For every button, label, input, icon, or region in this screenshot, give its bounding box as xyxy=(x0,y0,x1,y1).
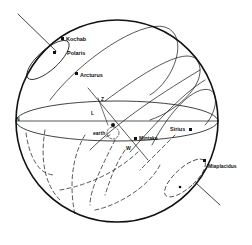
label-polaris: Polaris xyxy=(67,50,85,56)
zenith-line xyxy=(88,88,148,160)
observer-dot xyxy=(111,123,115,127)
star-path-2 xyxy=(105,56,200,120)
mintaka-path xyxy=(130,80,205,152)
polaris-marker xyxy=(53,51,56,54)
label-kochab: Kochab xyxy=(66,36,87,42)
kochab-marker xyxy=(61,37,64,40)
south-pole-dot xyxy=(179,186,182,189)
miaplacidus-marker xyxy=(203,159,206,162)
dashed-path-5 xyxy=(90,140,115,205)
dashed-path-6 xyxy=(95,165,160,210)
mintaka-marker xyxy=(134,137,137,140)
label-mintaka: Mintaka xyxy=(139,135,158,141)
label-miaplacidus: Miaplacidus xyxy=(208,163,237,169)
dashed-path-2 xyxy=(43,130,60,200)
label-zenith: Z xyxy=(101,96,104,102)
label-west: W xyxy=(126,145,131,151)
label-north: N xyxy=(16,116,20,122)
label-earth: earth xyxy=(93,130,105,136)
dashed-path-7 xyxy=(105,150,125,195)
sirius-marker xyxy=(189,128,192,131)
label-sirius: Sirius xyxy=(170,126,185,132)
polar-axis-lower xyxy=(196,183,220,205)
dashed-path-4 xyxy=(72,135,85,215)
arcturus-marker xyxy=(75,72,78,75)
label-latitude: L xyxy=(91,110,94,116)
label-arcturus: Arcturus xyxy=(80,72,103,78)
dashed-path-1 xyxy=(26,133,55,175)
celestial-sphere-diagram: Kochab Polaris Arcturus Mintaka Sirius M… xyxy=(0,0,252,245)
polaris-circle xyxy=(21,35,75,86)
